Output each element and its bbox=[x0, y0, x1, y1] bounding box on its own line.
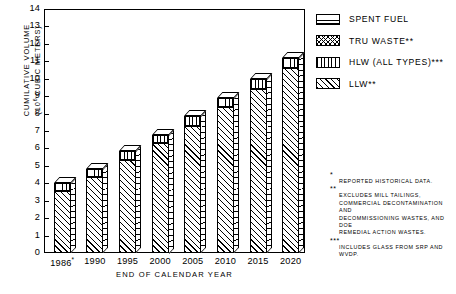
bar-segment-hlw bbox=[86, 169, 103, 177]
bar-segment-llw bbox=[152, 143, 169, 253]
bar bbox=[250, 79, 267, 253]
bar-segment-llw bbox=[54, 191, 71, 253]
y-axis-tick-label: 8 bbox=[18, 108, 40, 118]
y-axis-tick-label: 0 bbox=[18, 247, 40, 257]
legend-item-label: SPENT FUEL bbox=[349, 14, 409, 24]
cumulative-volume-chart: CUMILATIVE VOLUME (106 CUBIC METERS) 012… bbox=[0, 0, 456, 294]
legend-swatch-diagonal bbox=[316, 78, 340, 89]
bar-segment-llw bbox=[119, 160, 136, 253]
y-axis-tick-label: 10 bbox=[18, 73, 40, 83]
bar-segment-llw bbox=[217, 107, 234, 253]
footnote-text: REPORTED HISTORICAL DATA. bbox=[330, 178, 456, 185]
footnote: **EXCLUDES MILL TAILINGS,COMMERCIAL DECO… bbox=[330, 186, 456, 236]
x-axis-tick-label: 2020 bbox=[269, 256, 313, 266]
y-axis-tick-label: 11 bbox=[18, 55, 40, 65]
bar-segment-hlw bbox=[119, 151, 136, 160]
y-axis-tick-label: 6 bbox=[18, 142, 40, 152]
y-axis-tick-label: 1 bbox=[18, 230, 40, 240]
footnote-text: INCLUDES GLASS FROM SRP AND WVDP. bbox=[330, 244, 456, 259]
y-axis-tick-label: 7 bbox=[18, 125, 40, 135]
bar bbox=[54, 183, 71, 253]
bar bbox=[217, 98, 234, 253]
footnote-text: DECOMMISSIONING WASTES, AND DOE bbox=[330, 215, 456, 230]
bar-segment-hlw bbox=[54, 183, 71, 191]
bar bbox=[184, 116, 201, 253]
y-axis-tick-label: 14 bbox=[18, 3, 40, 13]
legend-swatch-vertical bbox=[316, 57, 340, 68]
bar-side-3d bbox=[136, 145, 141, 253]
y-axis-tick-label: 13 bbox=[18, 20, 40, 30]
bar-side-3d bbox=[201, 111, 206, 253]
legend-swatch-horizontal bbox=[316, 14, 340, 25]
bar-side-3d bbox=[103, 164, 108, 253]
bar bbox=[119, 151, 136, 253]
footnote-text: EXCLUDES MILL TAILINGS, bbox=[330, 192, 456, 199]
bar bbox=[86, 169, 103, 253]
y-axis-tick-label: 5 bbox=[18, 160, 40, 170]
legend-swatch-crosshatch bbox=[316, 35, 340, 46]
bar-segment-llw bbox=[184, 126, 201, 253]
y-axis-tick-label: 12 bbox=[18, 38, 40, 48]
footnotes: *REPORTED HISTORICAL DATA.**EXCLUDES MIL… bbox=[330, 172, 456, 260]
bar bbox=[282, 58, 299, 253]
bar-side-3d bbox=[267, 73, 272, 253]
legend-item: LLW** bbox=[316, 75, 444, 93]
footnote: *REPORTED HISTORICAL DATA. bbox=[330, 172, 456, 185]
legend-item: HLW (ALL TYPES)*** bbox=[316, 53, 444, 71]
legend-item-label: HLW (ALL TYPES)*** bbox=[349, 57, 444, 67]
bar-side-3d bbox=[169, 129, 174, 253]
bars-layer bbox=[44, 9, 305, 253]
bar-segment-hlw bbox=[152, 135, 169, 144]
bar-segment-hlw bbox=[217, 98, 234, 108]
y-axis-tick-label: 3 bbox=[18, 195, 40, 205]
x-axis-title: END OF CALENDAR YEAR bbox=[44, 270, 305, 279]
legend: SPENT FUELTRU WASTE**HLW (ALL TYPES)***L… bbox=[316, 10, 444, 96]
bar-side-3d bbox=[71, 178, 76, 253]
legend-item-label: TRU WASTE** bbox=[349, 36, 414, 46]
bar-segment-hlw bbox=[184, 116, 201, 126]
bar-segment-hlw bbox=[250, 79, 267, 89]
bar-segment-hlw bbox=[282, 58, 299, 68]
legend-item: TRU WASTE** bbox=[316, 32, 444, 50]
footnote-text: COMMERCIAL DECONTAMINATION AND bbox=[330, 200, 456, 215]
bar-side-3d bbox=[299, 52, 304, 253]
y-axis-tick-label: 2 bbox=[18, 212, 40, 222]
bar-segment-llw bbox=[250, 89, 267, 253]
footnote: ***INCLUDES GLASS FROM SRP AND WVDP. bbox=[330, 238, 456, 259]
bar-side-3d bbox=[234, 92, 239, 253]
y-axis-tick-label: 9 bbox=[18, 90, 40, 100]
legend-item-label: LLW** bbox=[349, 79, 376, 89]
bar-segment-llw bbox=[282, 68, 299, 253]
bar bbox=[152, 135, 169, 254]
bar-segment-llw bbox=[86, 177, 103, 253]
legend-item: SPENT FUEL bbox=[316, 10, 444, 28]
y-axis-tick-label: 4 bbox=[18, 177, 40, 187]
footnote-text: REMEDIAL ACTION WASTES. bbox=[330, 229, 456, 236]
